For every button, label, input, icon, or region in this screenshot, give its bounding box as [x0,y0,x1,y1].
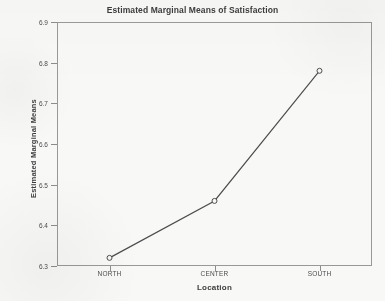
data-series-layer [0,0,385,301]
data-point-marker [212,198,217,203]
data-point-marker [317,68,322,73]
data-point-marker [107,255,112,260]
series-line [110,71,320,258]
chart-screenshot: Estimated Marginal Means of Satisfaction… [0,0,385,301]
